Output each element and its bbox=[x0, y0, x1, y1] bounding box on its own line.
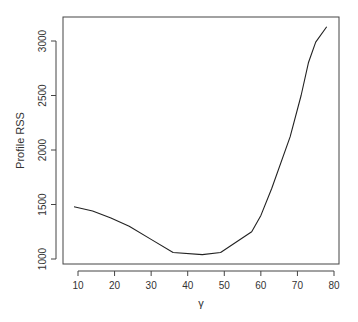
series-line bbox=[74, 27, 327, 255]
plot-box bbox=[63, 17, 339, 264]
x-axis: 1020304050607080 bbox=[72, 271, 340, 291]
y-axis: 10001500200025003000 bbox=[37, 29, 56, 270]
y-tick-label: 1500 bbox=[37, 193, 48, 216]
x-tick-label: 40 bbox=[182, 280, 194, 291]
y-tick-label: 1000 bbox=[37, 247, 48, 270]
x-tick-label: 10 bbox=[72, 280, 84, 291]
data-series bbox=[74, 27, 327, 255]
y-tick-label: 2000 bbox=[37, 138, 48, 161]
y-axis-label: Profile RSS bbox=[14, 112, 26, 169]
y-tick-label: 2500 bbox=[37, 84, 48, 107]
x-tick-label: 20 bbox=[109, 280, 121, 291]
x-tick-label: 60 bbox=[255, 280, 267, 291]
x-tick-label: 70 bbox=[292, 280, 304, 291]
profile-rss-chart: 1020304050607080 10001500200025003000 γ … bbox=[0, 0, 358, 322]
x-tick-label: 80 bbox=[328, 280, 340, 291]
x-axis-label: γ bbox=[198, 297, 204, 309]
x-tick-label: 30 bbox=[146, 280, 158, 291]
y-tick-label: 3000 bbox=[37, 29, 48, 52]
x-tick-label: 50 bbox=[219, 280, 231, 291]
